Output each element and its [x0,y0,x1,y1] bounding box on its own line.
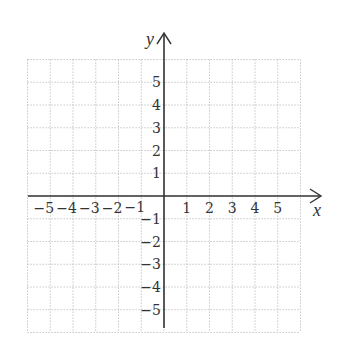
x-tick-label: 1 [182,200,191,216]
y-tick-label: 5 [152,74,161,90]
y-tick-label: 4 [152,97,161,113]
y-tick-label: −1 [140,211,161,227]
x-tick-label: −2 [102,200,123,216]
x-tick-label: 4 [251,200,260,216]
y-tick-label: −2 [140,234,161,250]
x-tick-label: −5 [34,200,55,216]
x-tick-label: 5 [273,200,282,216]
x-tick-label: 2 [205,200,214,216]
y-tick-label: −3 [140,256,161,272]
x-tick-label: −3 [79,200,100,216]
x-tick-label: 3 [228,200,237,216]
coordinate-plane: y x −5−4−3−2−112345 54321−1−2−3−4−5 [0,0,346,348]
y-tick-label: 2 [152,143,161,159]
x-axis-label: x [312,200,321,220]
y-tick-label: 3 [152,120,161,136]
y-tick-label: −5 [140,302,161,318]
y-axis-label: y [144,29,154,49]
x-tick-label: −4 [56,200,77,216]
y-tick-label: −4 [140,279,161,295]
y-tick-label: 1 [152,165,161,181]
